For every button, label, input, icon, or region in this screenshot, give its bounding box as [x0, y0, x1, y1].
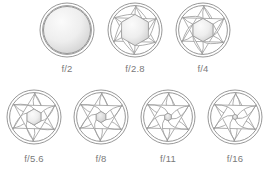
aperture-label-f-4: f/4 [197, 63, 208, 74]
aperture-opening [44, 7, 91, 54]
aperture-label-f-11: f/11 [160, 153, 176, 164]
aperture-label-f-16: f/16 [227, 153, 244, 164]
aperture-f-2[interactable] [40, 3, 94, 57]
aperture-f-16[interactable] [208, 90, 262, 144]
aperture-opening [233, 114, 238, 119]
aperture-opening [96, 112, 106, 123]
aperture-opening [165, 113, 172, 121]
aperture-label-f-2-8: f/2.8 [125, 63, 145, 74]
aperture-f-4[interactable] [176, 3, 230, 57]
aperture-label-f-8: f/8 [95, 153, 106, 164]
aperture-f-5-6[interactable] [7, 90, 61, 144]
aperture-f-2-8[interactable] [108, 3, 162, 57]
aperture-fstop-diagram: f/2f/2.8f/4f/5.6f/8f/11f/16 [0, 0, 267, 171]
aperture-f-8[interactable] [74, 90, 128, 144]
aperture-f-11[interactable] [141, 90, 195, 144]
aperture-label-f-2: f/2 [61, 63, 72, 74]
aperture-opening [27, 109, 41, 125]
aperture-label-f-5-6: f/5.6 [24, 153, 44, 164]
